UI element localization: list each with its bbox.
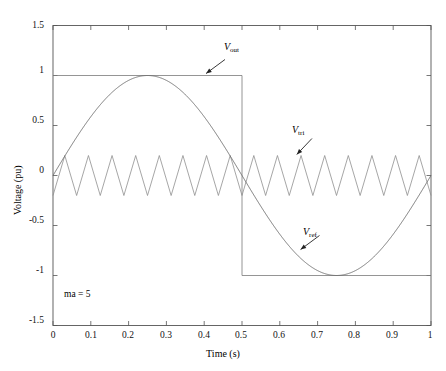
x-tick-label: 0.4	[188, 330, 220, 340]
x-tick-label: 0.6	[263, 330, 295, 340]
y-tick-label: 0.5	[14, 115, 44, 125]
y-tick-label: 1.5	[14, 20, 44, 30]
x-tick-label: 0.2	[112, 330, 144, 340]
vtri-annotation-sub: tri	[298, 129, 304, 137]
vout-annotation-sub: out	[230, 46, 239, 54]
x-tick-label: 0.5	[225, 330, 257, 340]
y-tick-label: -1.5	[14, 315, 44, 325]
y-tick-label: -1	[14, 265, 44, 275]
x-tick-label: 0.3	[150, 330, 182, 340]
x-tick-label: 1	[414, 330, 446, 340]
ma-note: ma = 5	[64, 289, 90, 299]
y-tick-label: 1	[14, 65, 44, 75]
vout-annotation: Vout	[224, 41, 239, 52]
x-tick-label: 0	[37, 330, 69, 340]
x-axis-title: Time (s)	[0, 348, 446, 359]
y-axis-title: Voltage (pu)	[12, 165, 23, 215]
chart-figure: 1.5 1 0.5 0 -0.5 -1 -1.5 0 0.1 0.2 0.3 0…	[0, 0, 446, 371]
x-tick-label: 0.7	[301, 330, 333, 340]
plot-canvas	[0, 0, 446, 371]
x-tick-label: 0.8	[338, 330, 370, 340]
vref-annotation-sub: ref	[309, 231, 317, 239]
y-tick-label: -0.5	[14, 215, 44, 225]
x-tick-label: 0.1	[75, 330, 107, 340]
vtri-annotation: Vtri	[292, 124, 304, 135]
x-tick-label: 0.9	[376, 330, 408, 340]
annotation-arrows	[206, 60, 319, 250]
vref-annotation: Vref	[303, 226, 317, 237]
